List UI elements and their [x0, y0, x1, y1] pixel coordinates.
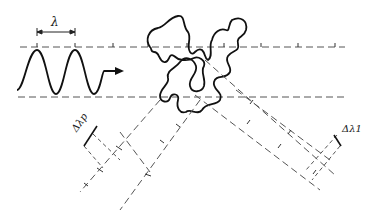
- delta-lambda-1-bracket: [334, 135, 341, 146]
- right-ray-ticks: [247, 100, 316, 174]
- delta-lambda-1-marker: [306, 135, 340, 180]
- backscatter-rays: [80, 100, 200, 210]
- scattering-diagram: λ Δλp Δλ1: [0, 0, 373, 217]
- wavelength-label: λ: [51, 16, 59, 28]
- polymer-coil: [148, 16, 247, 112]
- top-line-ticks: [37, 43, 335, 47]
- delta-lambda-1-label: Δλ1: [342, 124, 362, 134]
- diagram-svg: [0, 0, 373, 217]
- arrow-head-icon: [115, 67, 124, 75]
- horizontal-reference-lines: [18, 47, 345, 97]
- wavelength-dimension: [37, 28, 75, 36]
- left-ray-ticks: [84, 124, 180, 186]
- incident-wave: [17, 50, 117, 94]
